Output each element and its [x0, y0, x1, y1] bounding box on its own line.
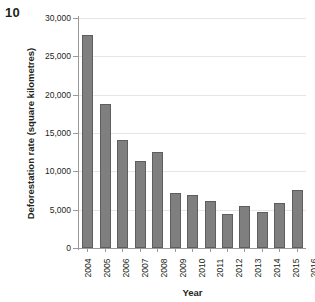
x-axis-tick-label-2012: 2012	[234, 259, 244, 278]
bar-slot	[96, 18, 113, 248]
x-axis-tick	[210, 248, 211, 252]
bar-2007[interactable]	[135, 161, 146, 248]
bar-2006[interactable]	[117, 140, 128, 248]
y-axis-tick	[73, 248, 78, 249]
x-axis-tick-labels: 2004200520062007200820092010201120122013…	[79, 253, 306, 285]
bar-2012[interactable]	[222, 214, 233, 249]
x-axis-label-slot: 2015	[287, 253, 306, 285]
x-axis-label-slot: 2014	[268, 253, 287, 285]
bar-slot	[131, 18, 148, 248]
x-axis-tick	[87, 248, 88, 252]
bar-2009[interactable]	[170, 193, 181, 248]
y-axis-tick	[73, 171, 78, 172]
x-axis-label-slot: 2009	[174, 253, 193, 285]
bar-slot	[271, 18, 288, 248]
bar-2011[interactable]	[205, 201, 216, 248]
figure-container: 10 Deforestation rate (square kilometres…	[0, 0, 315, 302]
x-axis-tick-label-2013: 2013	[253, 259, 263, 278]
x-axis-label-slot: 2010	[193, 253, 212, 285]
x-axis-label-slot: 2013	[249, 253, 268, 285]
x-axis-tick-label-2009: 2009	[178, 259, 188, 278]
bar-2015[interactable]	[274, 203, 285, 248]
x-axis-tick	[105, 248, 106, 252]
bar-2014[interactable]	[257, 212, 268, 248]
x-axis-tick	[279, 248, 280, 252]
x-axis-tick-label-2015: 2015	[291, 259, 301, 278]
bar-slot	[254, 18, 271, 248]
bar-2010[interactable]	[187, 195, 198, 248]
y-axis-tick-label: 20,000	[11, 90, 71, 100]
bar-slot	[166, 18, 183, 248]
bar-slot	[289, 18, 306, 248]
x-axis-tick-label-2007: 2007	[140, 259, 150, 278]
y-axis-tick	[73, 56, 78, 57]
y-axis-tick	[73, 18, 78, 19]
x-axis-label-slot: 2005	[98, 253, 117, 285]
x-axis-tick	[140, 248, 141, 252]
x-axis-tick-label-2005: 2005	[102, 259, 112, 278]
x-axis-label-slot: 2011	[211, 253, 229, 285]
y-axis-tick-label: 0	[11, 243, 71, 253]
x-axis-label-slot: 2016	[305, 253, 315, 285]
x-axis-tick	[227, 248, 228, 252]
x-axis-title: Year	[79, 287, 306, 298]
x-axis-tick-label-2011: 2011	[216, 259, 226, 277]
y-axis-tick	[73, 210, 78, 211]
x-axis-label-slot: 2004	[79, 253, 98, 285]
bar-2016[interactable]	[292, 190, 303, 248]
bar-2013[interactable]	[239, 206, 250, 248]
bar-2005[interactable]	[100, 104, 111, 248]
x-axis-label-slot: 2012	[230, 253, 249, 285]
y-axis-tick-label: 15,000	[11, 128, 71, 138]
bar-slot	[201, 18, 218, 248]
x-axis-tick-label-2010: 2010	[197, 259, 207, 278]
x-axis-label-slot: 2008	[155, 253, 174, 285]
x-axis-tick-label-2008: 2008	[159, 259, 169, 278]
bar-slot	[219, 18, 236, 248]
x-axis-tick	[297, 248, 298, 252]
bar-2008[interactable]	[152, 152, 163, 248]
y-axis-tick-label: 5,000	[11, 205, 71, 215]
bar-slot	[236, 18, 253, 248]
bar-slot	[79, 18, 96, 248]
x-axis-tick	[157, 248, 158, 252]
bar-2004[interactable]	[82, 35, 93, 248]
y-axis-tick-label: 30,000	[11, 13, 71, 23]
x-axis-tick	[122, 248, 123, 252]
bar-slot	[184, 18, 201, 248]
x-axis-tick-label-2016: 2016	[310, 259, 315, 278]
bar-series	[79, 18, 306, 248]
x-axis-tick	[192, 248, 193, 252]
x-axis-tick-label-2014: 2014	[272, 259, 282, 278]
bar-slot	[149, 18, 166, 248]
y-axis-tick	[73, 95, 78, 96]
y-axis-tick-label: 25,000	[11, 51, 71, 61]
x-axis-tick-label-2004: 2004	[83, 259, 93, 278]
bar-slot	[114, 18, 131, 248]
x-axis-label-slot: 2007	[136, 253, 155, 285]
x-axis-tick	[244, 248, 245, 252]
plot-area	[79, 18, 306, 248]
x-axis-tick	[262, 248, 263, 252]
x-axis-tick-label-2006: 2006	[121, 259, 131, 278]
y-axis-tick-label: 10,000	[11, 166, 71, 176]
x-axis-tick	[175, 248, 176, 252]
y-axis-tick	[73, 133, 78, 134]
x-axis-label-slot: 2006	[117, 253, 136, 285]
